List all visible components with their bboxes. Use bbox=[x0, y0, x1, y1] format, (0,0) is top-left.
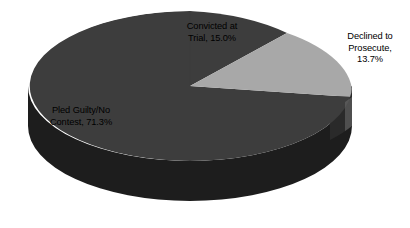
slice-label-pled-guilty-no-contest: Pled Guilty/No Contest, 71.3% bbox=[26, 105, 136, 128]
pie-side-wall-light-segment bbox=[345, 97, 352, 131]
slice-label-convicted-at-trial: Convicted at Trial, 15.0% bbox=[160, 21, 264, 44]
pie-chart: Convicted at Trial, 15.0% Declined to Pr… bbox=[0, 0, 410, 228]
slice-label-declined-to-prosecute: Declined to Prosecute, 13.7% bbox=[330, 31, 410, 66]
